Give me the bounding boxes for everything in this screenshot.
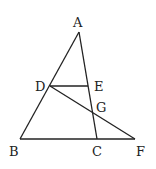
- label-e: E: [94, 79, 104, 94]
- segment-df: [50, 86, 135, 139]
- label-b: B: [9, 144, 19, 159]
- label-d: D: [35, 79, 45, 94]
- label-a: A: [72, 15, 83, 30]
- label-f: F: [136, 144, 145, 159]
- label-c: C: [92, 144, 102, 159]
- label-g: G: [96, 100, 106, 115]
- geometry-diagram: A B C F D E G: [0, 0, 156, 169]
